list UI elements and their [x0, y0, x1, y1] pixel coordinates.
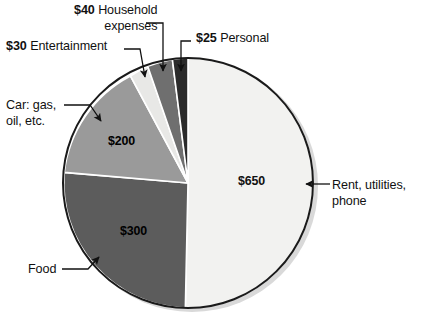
callout-rent-line1: Rent, utilities, [332, 178, 406, 192]
callout-car: Car: gas, oil, etc. [6, 98, 56, 129]
callout-entertainment-amount: $30 [6, 39, 27, 53]
callout-food-line1: Food [28, 262, 56, 276]
pie-slice-food[interactable] [64, 172, 188, 308]
callout-personal-amount: $25 [196, 31, 217, 45]
slice-label-rent-amount: $650 [238, 174, 265, 188]
callout-household-expenses: $40 Household expenses [74, 3, 157, 34]
pie-chart-figure: $40 Household expenses $30 Entertainment… [0, 0, 422, 330]
callout-personal: $25 Personal [196, 31, 269, 47]
callout-rent-utilities-phone: Rent, utilities, phone [332, 178, 406, 209]
callout-car-line1: Car: gas, [6, 98, 56, 112]
callout-entertainment-name: Entertainment [30, 39, 107, 53]
callout-household-name-line2: expenses [74, 19, 157, 35]
slice-label-food-amount: $300 [120, 224, 147, 238]
callout-car-line2: oil, etc. [6, 114, 56, 130]
callout-entertainment: $30 Entertainment [6, 39, 107, 55]
callout-household-name: Household [98, 3, 157, 17]
callout-rent-line2: phone [332, 194, 406, 210]
slice-label-car-amount: $200 [108, 134, 135, 148]
callout-personal-name: Personal [220, 31, 269, 45]
callout-food: Food [28, 262, 56, 278]
callout-household-amount: $40 [74, 3, 95, 17]
